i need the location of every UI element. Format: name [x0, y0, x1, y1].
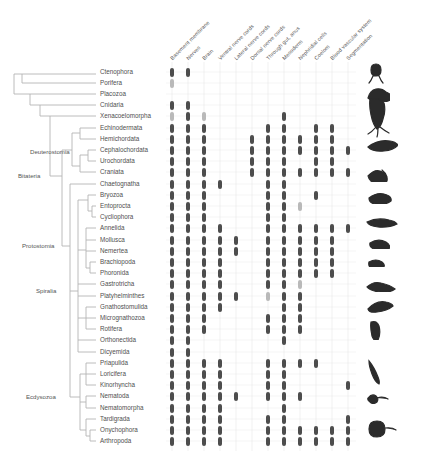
state-dot-brain [202, 280, 205, 290]
state-dot-lateral-nerve-cords [234, 236, 237, 246]
state-dot-basement-membrane [170, 224, 173, 234]
echinoderm-silhouette [366, 137, 398, 153]
state-dot-mesoderm [282, 236, 285, 246]
state-dot-blood-vascular-system [330, 135, 333, 145]
state-dot-through-gut-anus [266, 258, 269, 268]
state-dot-coelom [314, 236, 317, 246]
fish-silhouette [366, 168, 390, 182]
taxon-label-porifera: Porifera [100, 80, 122, 86]
state-dot-nerves [186, 146, 189, 156]
taxon-label-cycliophora: Cycliophora [100, 214, 133, 220]
state-dot-brain [202, 303, 205, 313]
state-dot-basement-membrane [170, 269, 173, 279]
taxon-label-cnidaria: Cnidaria [100, 102, 123, 108]
state-dot-brain [202, 437, 205, 447]
taxon-label-tardigrada: Tardigrada [100, 416, 130, 422]
state-dot-through-gut-anus [266, 437, 269, 447]
state-dot-basement-membrane [170, 437, 173, 447]
state-dot-brain [202, 112, 205, 122]
state-dot-mesoderm [282, 336, 285, 346]
state-dot-nephridial-cells [298, 224, 301, 234]
state-dot-blood-vascular-system [330, 426, 333, 436]
bryozoan-silhouette [366, 216, 398, 228]
mollusc-silhouette [366, 237, 390, 249]
state-dot-coelom [314, 168, 317, 178]
state-dot-basement-membrane [170, 247, 173, 257]
taxon-label-echinodermata: Echinodermata [100, 125, 142, 131]
state-dot-dorsal-nerve-cords [250, 146, 253, 156]
state-dot-basement-membrane [170, 314, 173, 324]
ctenophore-silhouette [366, 63, 386, 85]
state-dot-coelom [314, 437, 317, 447]
state-dot-nerves [186, 202, 189, 212]
taxon-label-kinorhyncha: Kinorhyncha [100, 382, 135, 388]
state-dot-brain [202, 191, 205, 201]
state-dot-ventral-nerve-cords [218, 247, 221, 257]
state-dot-through-gut-anus [266, 191, 269, 201]
state-dot-nephridial-cells [298, 168, 301, 178]
state-dot-through-gut-anus [266, 157, 269, 167]
taxon-label-craniata: Craniata [100, 169, 124, 175]
taxon-label-hemichordata: Hemichordata [100, 136, 139, 142]
tree-and-grid-layer [0, 0, 424, 451]
state-dot-mesoderm [282, 292, 285, 302]
state-dot-nephridial-cells [298, 236, 301, 246]
state-dot-mesoderm [282, 168, 285, 178]
state-dot-basement-membrane [170, 68, 173, 78]
state-dot-basement-membrane [170, 415, 173, 425]
state-dot-segmentation [346, 415, 349, 425]
state-dot-nerves [186, 303, 189, 313]
state-dot-basement-membrane [170, 79, 173, 89]
state-dot-ventral-nerve-cords [218, 392, 221, 402]
state-dot-mesoderm [282, 258, 285, 268]
worm-silhouette [366, 280, 396, 292]
taxon-label-onychophora: Onychophora [100, 427, 138, 433]
state-dot-basement-membrane [170, 381, 173, 391]
state-dot-nerves [186, 247, 189, 257]
state-dot-mesoderm [282, 191, 285, 201]
state-dot-basement-membrane [170, 426, 173, 436]
state-dot-basement-membrane [170, 370, 173, 380]
state-dot-nephridial-cells [298, 437, 301, 447]
state-dot-brain [202, 168, 205, 178]
state-dot-brain [202, 415, 205, 425]
state-dot-coelom [314, 157, 317, 167]
state-dot-mesoderm [282, 280, 285, 290]
snail-silhouette [366, 257, 386, 267]
nematode-silhouette [366, 359, 382, 385]
state-dot-segmentation [346, 146, 349, 156]
state-dot-coelom [314, 146, 317, 156]
taxon-label-bryozoa: Bryozoa [100, 192, 123, 198]
state-dot-ventral-nerve-cords [218, 224, 221, 234]
state-dot-ventral-nerve-cords [218, 236, 221, 246]
state-dot-coelom [314, 359, 317, 369]
state-dot-through-gut-anus [266, 381, 269, 391]
taxon-label-urochordata: Urochordata [100, 158, 135, 164]
state-dot-nerves [186, 336, 189, 346]
state-dot-mesoderm [282, 437, 285, 447]
state-dot-ventral-nerve-cords [218, 404, 221, 414]
state-dot-nephridial-cells [298, 280, 301, 290]
clade-label-spiralia: Spiralia [36, 288, 56, 294]
state-dot-nerves [186, 213, 189, 223]
state-dot-mesoderm [282, 213, 285, 223]
state-dot-dorsal-nerve-cords [250, 168, 253, 178]
tardigrade-silhouette [366, 392, 390, 404]
state-dot-through-gut-anus [266, 168, 269, 178]
state-dot-basement-membrane [170, 325, 173, 335]
state-dot-coelom [314, 135, 317, 145]
state-dot-basement-membrane [170, 359, 173, 369]
state-dot-through-gut-anus [266, 325, 269, 335]
state-dot-brain [202, 292, 205, 302]
state-dot-blood-vascular-system [330, 437, 333, 447]
state-dot-nephridial-cells [298, 135, 301, 145]
taxon-label-brachiopoda: Brachiopoda [100, 259, 135, 265]
state-dot-mesoderm [282, 112, 285, 122]
state-dot-basement-membrane [170, 146, 173, 156]
state-dot-nephridial-cells [298, 269, 301, 279]
taxon-label-gnathostomulida: Gnathostomulida [100, 304, 148, 310]
state-dot-nerves [186, 68, 189, 78]
state-dot-nerves [186, 404, 189, 414]
taxon-label-nemertea: Nemertea [100, 248, 128, 254]
state-dot-basement-membrane [170, 236, 173, 246]
